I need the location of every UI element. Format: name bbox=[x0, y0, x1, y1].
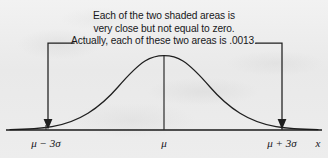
left-leader-line bbox=[48, 43, 74, 121]
tick-label-center: μ bbox=[160, 137, 167, 149]
normal-curve-plot: μ − 3σ μ μ + 3σ x bbox=[0, 0, 328, 158]
tick-label-lower: μ − 3σ bbox=[30, 137, 61, 149]
right-leader-line bbox=[256, 43, 282, 121]
x-axis-label: x bbox=[315, 137, 321, 149]
normal-curve-figure: Each of the two shaded areas is very clo… bbox=[0, 0, 328, 158]
tick-label-upper: μ + 3σ bbox=[266, 137, 297, 149]
